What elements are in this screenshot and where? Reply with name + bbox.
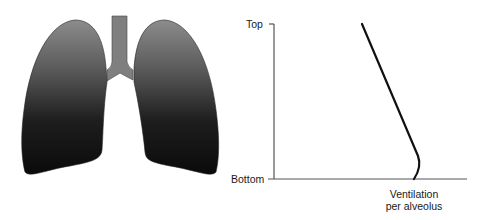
lungs-illustration: [22, 16, 219, 174]
x-axis-label: Ventilation per alveolus: [364, 188, 464, 212]
right-lung: [134, 20, 219, 174]
ventilation-graph: [268, 24, 467, 179]
left-lung: [22, 20, 107, 174]
x-axis-label-line2: per alveolus: [364, 200, 464, 212]
x-axis-label-line1: Ventilation: [364, 188, 464, 200]
y-axis-bottom-label: Bottom: [231, 173, 264, 185]
trachea: [107, 16, 133, 81]
y-axis-top-label: Top: [246, 18, 263, 30]
figure: [0, 0, 487, 220]
ventilation-curve: [362, 24, 419, 179]
